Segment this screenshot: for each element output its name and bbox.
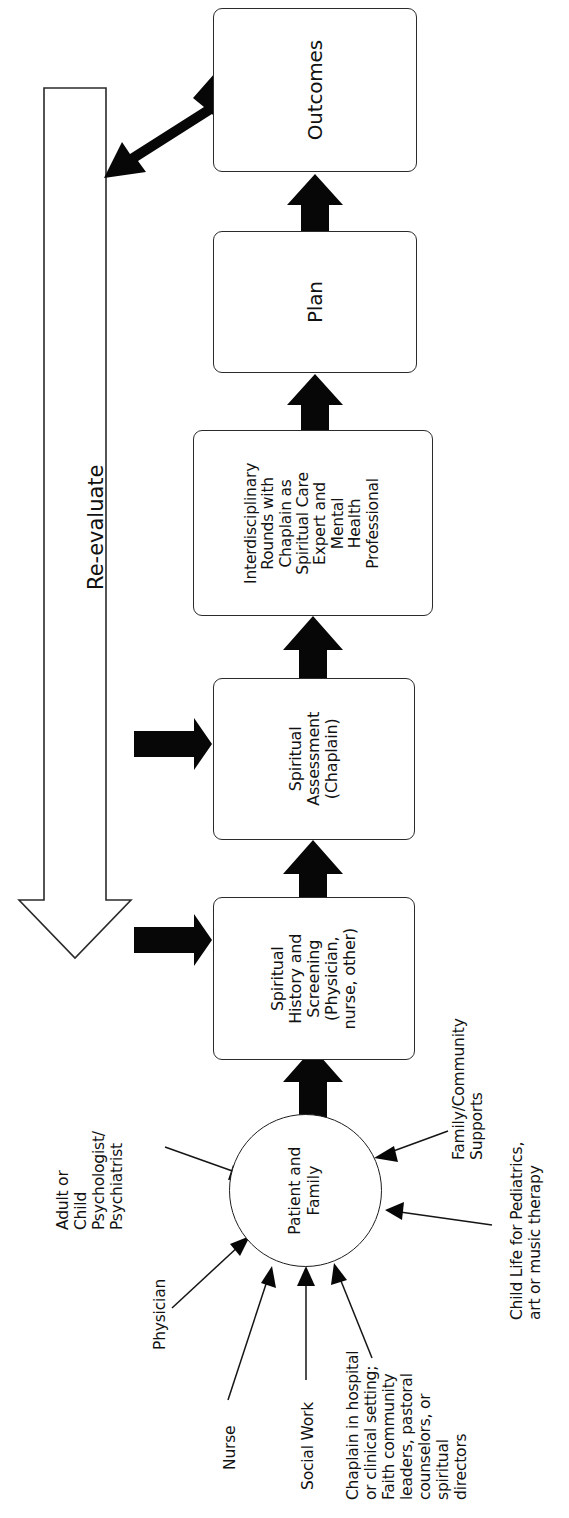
node-spiritual-history-label: Spiritual History and Screening (Physici…: [269, 928, 359, 1029]
connector-physician: [172, 1236, 250, 1308]
node-patient-and-family[interactable]: Patient and Family: [229, 1114, 382, 1267]
connector-childlife: [385, 1202, 492, 1225]
arrow-history-to-assessment: [283, 840, 343, 897]
connector-nurse: [228, 1266, 276, 1400]
contributor-label-family-supports: Family/Community Supports: [451, 1018, 487, 1160]
node-patient-and-family-label: Patient and Family: [287, 1146, 324, 1234]
feedback-arrow-icon: [104, 73, 222, 178]
contributor-label-child-life: Child Life for Pediatrics, art or music …: [509, 1142, 545, 1320]
node-outcomes-label: Outcomes: [304, 40, 326, 140]
re-evaluate-label: Re-evaluate: [84, 464, 108, 590]
re-evaluate-arrow-shape: [19, 88, 131, 958]
arrow-into-history: [134, 914, 212, 966]
connector-family: [374, 1131, 448, 1162]
contributor-label-physician: Physician: [152, 1279, 170, 1350]
contributor-label-nurse: Nurse: [222, 1426, 240, 1470]
node-spiritual-assessment[interactable]: Spiritual Assessment (Chaplain): [213, 678, 415, 840]
node-plan-label: Plan: [304, 281, 326, 323]
node-interdisciplinary-rounds[interactable]: Interdisciplinary Rounds with Chaplain a…: [193, 430, 433, 616]
node-plan[interactable]: Plan: [213, 231, 417, 373]
arrow-plan-to-outcomes: [287, 174, 343, 231]
node-spiritual-history[interactable]: Spiritual History and Screening (Physici…: [213, 897, 415, 1060]
node-interdisciplinary-rounds-label: Interdisciplinary Rounds with Chaplain a…: [244, 462, 383, 583]
node-spiritual-assessment-label: Spiritual Assessment (Chaplain): [287, 712, 341, 806]
diagram-canvas: Outcomes Plan Interdisciplinary Rounds w…: [0, 0, 569, 1518]
contributor-label-psych: Adult or Child Psychologist/ Psychiatris…: [55, 1131, 127, 1230]
arrow-into-assessment: [134, 718, 212, 770]
connector-social: [297, 1266, 315, 1380]
contributor-label-chaplain: Chaplain in hospital or clinical setting…: [345, 1351, 471, 1500]
node-outcomes[interactable]: Outcomes: [213, 8, 417, 172]
arrow-assessment-to-rounds: [283, 616, 343, 678]
connector-chaplain: [331, 1263, 372, 1358]
arrow-rounds-to-plan: [287, 374, 343, 430]
contributor-label-social-work: Social Work: [300, 1402, 318, 1490]
